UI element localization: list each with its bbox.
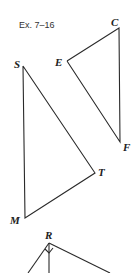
vertex-label-c: C [111,17,118,28]
vertex-label-t: T [98,167,105,178]
triangle-ecf [67,28,120,142]
vertex-label-m: M [10,215,20,226]
vertex-label-r: R [45,230,52,241]
triangle-stm [23,66,95,218]
vertex-label-e: E [55,57,62,68]
vertex-label-s: S [14,59,20,70]
figure-drawing [0,0,139,273]
figure-caption: Ex. 7–16 [19,20,55,30]
vertex-label-f: F [123,142,130,153]
geometry-figure: Ex. 7–16 C E F S T M R [0,0,139,273]
triangle-r-partial [28,243,110,273]
